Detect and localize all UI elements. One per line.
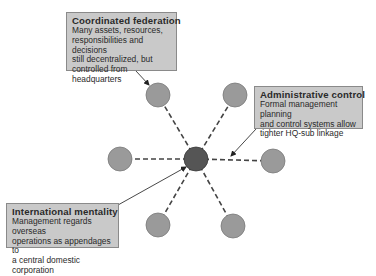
arrow-international-mentality [118,167,186,205]
callout-administrative-control: Administrative control Formal management… [254,86,363,129]
subsidiary-node-right [261,149,285,173]
headquarters-hub-node [184,147,208,171]
subsidiary-node-bottom-right [221,214,245,238]
arrow-administrative-control [231,129,256,156]
subsidiary-node-top-left [146,83,170,107]
subsidiary-node-bottom-left [146,213,170,237]
callout-body: Management regards overseas operations a… [12,217,113,276]
subsidiary-node-top-right [223,83,247,107]
callout-body: Many assets, resources, responsibilities… [72,26,171,85]
callout-international-mentality: International mentality Management regar… [6,203,119,248]
subsidiary-node-left [108,147,132,171]
callout-body: Formal management planning and control s… [260,100,357,139]
callout-coordinated-federation: Coordinated federation Many assets, reso… [66,12,177,71]
